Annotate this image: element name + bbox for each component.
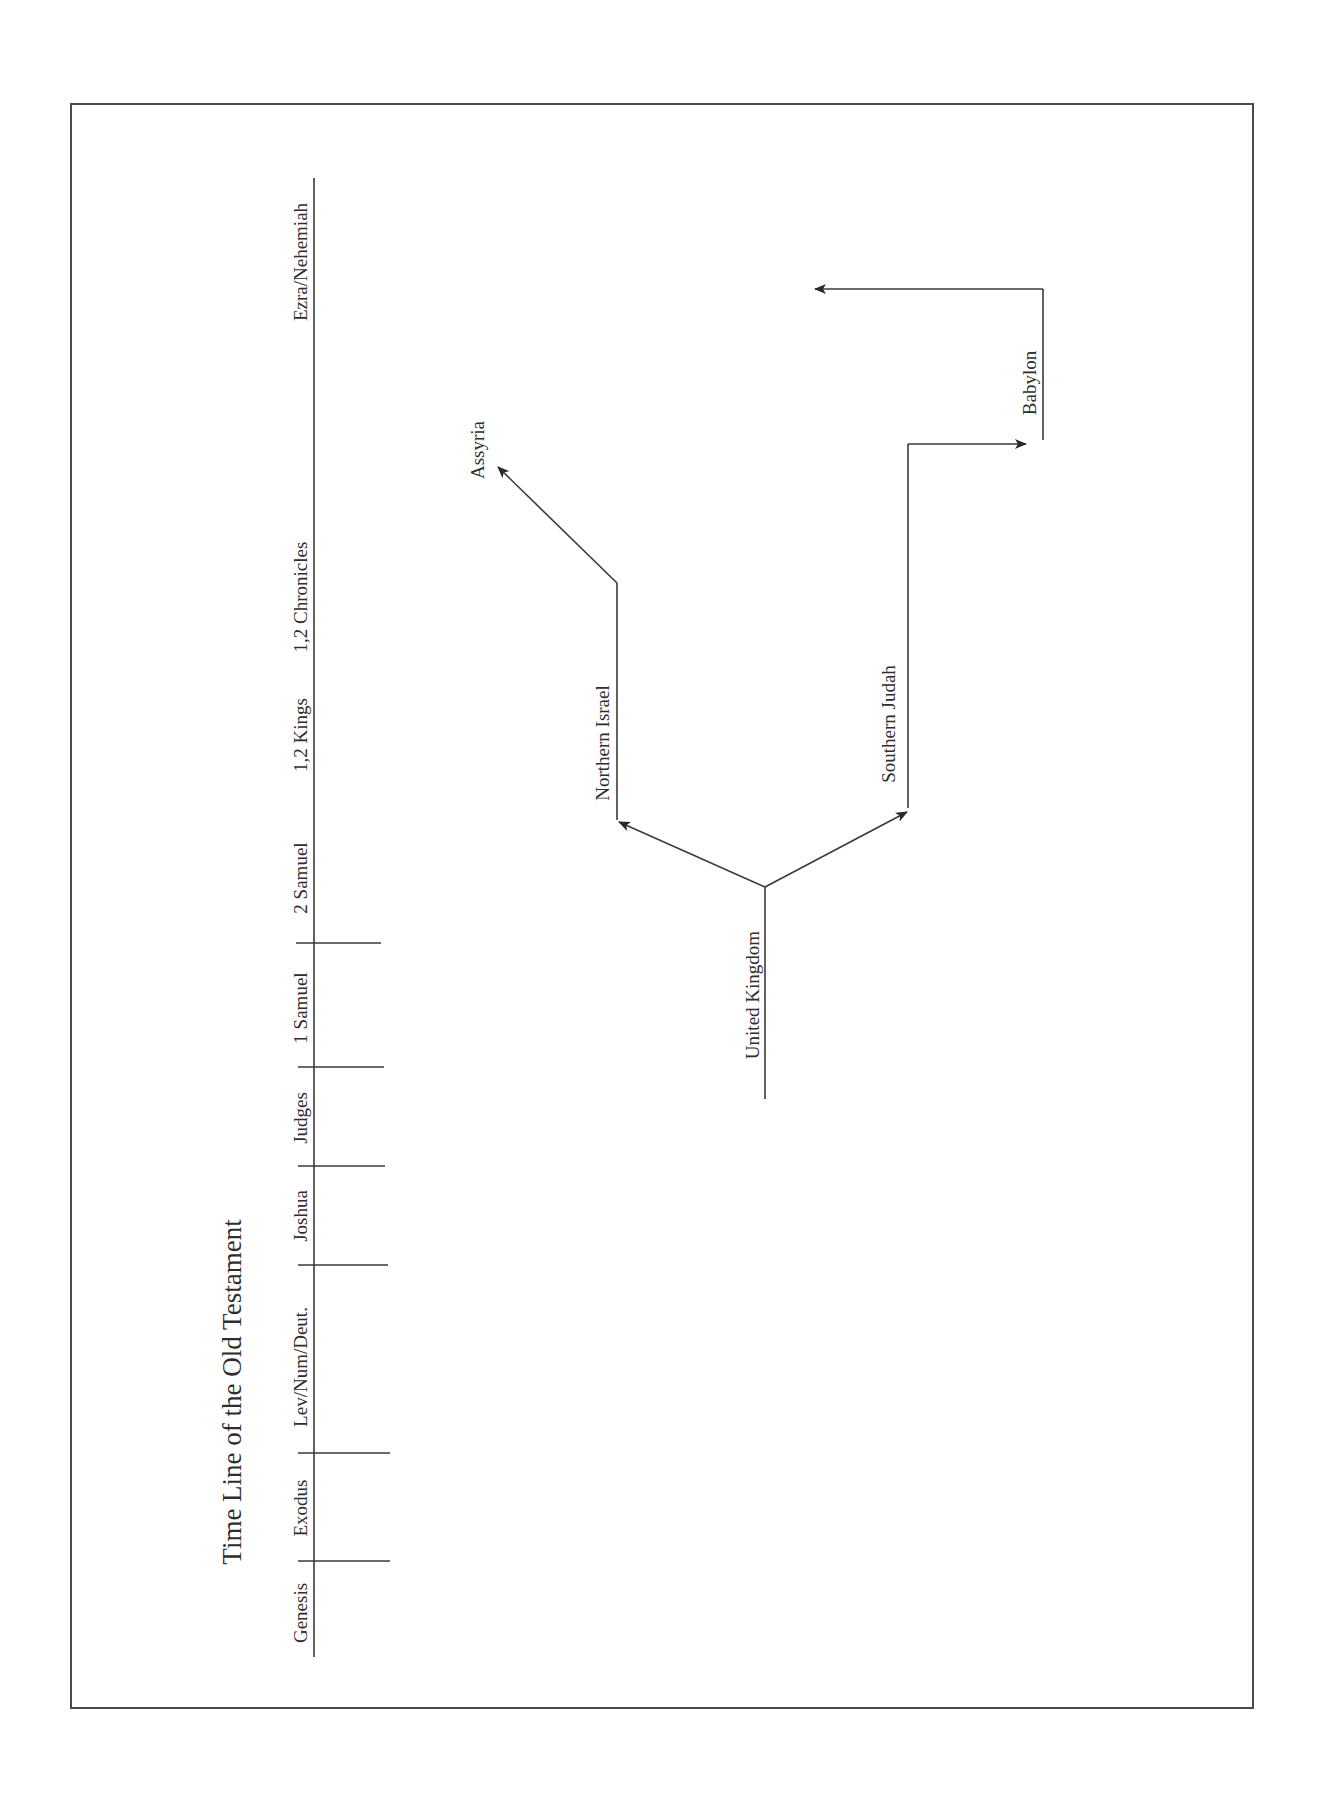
book-label-ezra-nehemiah: Ezra/Nehemiah (290, 202, 311, 321)
book-label-genesis: Genesis (290, 1583, 311, 1643)
arrow-to-southern-judah (765, 812, 907, 887)
book-label-joshua: Joshua (290, 1190, 311, 1242)
label-babylon: Babylon (1019, 350, 1040, 415)
arrow-to-assyria (498, 467, 617, 583)
label-united-kingdom: United Kingdom (742, 931, 763, 1059)
book-label-1-2-chronicles: 1,2 Chronicles (290, 542, 311, 653)
timeline-diagram: Time Line of the Old Testament Genesis E… (0, 0, 1317, 1799)
label-northern-israel: Northern Israel (592, 685, 613, 801)
book-label-judges: Judges (290, 1092, 311, 1144)
book-label-1-2-kings: 1,2 Kings (290, 698, 311, 772)
label-southern-judah: Southern Judah (878, 665, 899, 783)
book-label-1-samuel: 1 Samuel (290, 972, 311, 1043)
label-assyria: Assyria (467, 420, 488, 479)
book-label-lev-num-deut: Lev/Num/Deut. (290, 1307, 311, 1427)
arrow-to-northern-israel (619, 822, 765, 887)
book-label-2-samuel: 2 Samuel (290, 842, 311, 913)
book-label-exodus: Exodus (290, 1480, 311, 1537)
page-frame (71, 104, 1253, 1708)
book-labels: Genesis Exodus Lev/Num/Deut. Joshua Judg… (290, 202, 311, 1643)
page-title: Time Line of the Old Testament (217, 1219, 247, 1565)
